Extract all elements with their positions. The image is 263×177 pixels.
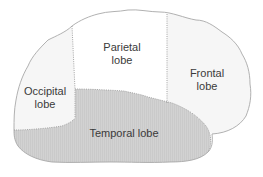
parietal-lobe-label: Parietal lobe xyxy=(96,41,148,67)
occipital-lobe-region xyxy=(14,26,75,130)
frontal-label-line2: lobe xyxy=(182,80,232,93)
temporal-label-line1: Temporal lobe xyxy=(84,127,164,140)
occipital-label-line2: lobe xyxy=(20,98,70,111)
brain-lobes-diagram: Parietal lobe Frontal lobe Occipital lob… xyxy=(0,0,263,177)
frontal-label-line1: Frontal xyxy=(182,67,232,80)
occipital-label-line1: Occipital xyxy=(20,85,70,98)
temporal-lobe-label: Temporal lobe xyxy=(84,127,164,140)
occipital-lobe-label: Occipital lobe xyxy=(20,85,70,111)
frontal-lobe-label: Frontal lobe xyxy=(182,67,232,93)
parietal-label-line1: Parietal xyxy=(96,41,148,54)
parietal-label-line2: lobe xyxy=(96,54,148,67)
